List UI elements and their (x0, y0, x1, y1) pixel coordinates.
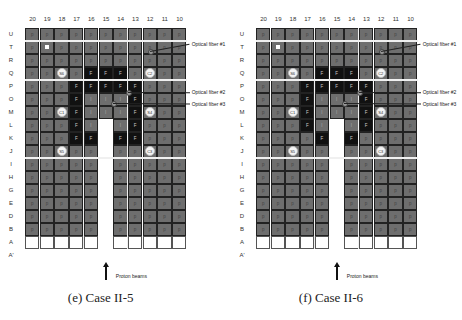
row-label: J (4, 148, 18, 154)
core-cell: C1 (54, 106, 68, 119)
detector-circle-s6: S6 (57, 68, 67, 78)
core-cell: p (113, 197, 127, 210)
row-label: D (4, 213, 18, 219)
column-label: 11 (388, 16, 403, 22)
row-label: R (235, 57, 249, 63)
core-cell: p (330, 28, 344, 41)
core-cell: p (69, 223, 83, 236)
core-cell: p (285, 184, 299, 197)
core-cell: p (143, 197, 157, 210)
column-label: 14 (344, 16, 359, 22)
core-cell: p (69, 210, 83, 223)
core-cell: p (172, 106, 186, 119)
core-cell: p (300, 223, 314, 236)
core-cell: p (157, 145, 171, 158)
core-cell: S4 (143, 106, 157, 119)
core-cell: p (285, 158, 299, 171)
column-label: 17 (300, 16, 315, 22)
white-marker-icon (45, 45, 49, 49)
column-label: 12 (143, 16, 158, 22)
core-cell: p (403, 210, 417, 223)
core-cell: p (84, 184, 98, 197)
core-cell: p (344, 54, 358, 67)
figure-caption: (e) Case II-5 (68, 290, 134, 306)
core-cell (40, 41, 54, 54)
core-cell: p (374, 119, 388, 132)
core-cell: p (315, 223, 329, 236)
core-cell: p (172, 28, 186, 41)
detector-circle-c2: C2 (145, 68, 155, 78)
core-cell: p (143, 28, 157, 41)
core-cell: p (285, 132, 299, 145)
core-cell: p (128, 210, 142, 223)
core-cell: p (359, 197, 373, 210)
core-cell: p (69, 28, 83, 41)
core-cell: p (359, 67, 373, 80)
core-cell: p (374, 132, 388, 145)
core-cell: p (388, 119, 402, 132)
core-cell: p (172, 184, 186, 197)
core-cell (99, 210, 113, 223)
core-cell: p (300, 158, 314, 171)
core-cell: S5 (285, 145, 299, 158)
core-cell: p (374, 158, 388, 171)
core-cell: p (25, 171, 39, 184)
core-cell: C3 (374, 145, 388, 158)
core-cell: p (359, 41, 373, 54)
core-cell: F (69, 132, 83, 145)
core-cell: p (388, 28, 402, 41)
core-cell: p (315, 158, 329, 171)
core-cell: p (69, 67, 83, 80)
core-cell: I (315, 119, 329, 132)
row-label: A' (235, 252, 249, 258)
core-cell: p (40, 184, 54, 197)
core-cell: p (315, 171, 329, 184)
row-label: J (235, 148, 249, 154)
grid-separator (314, 28, 316, 249)
core-cell: p (359, 158, 373, 171)
core-cell: p (285, 93, 299, 106)
core-cell: p (285, 197, 299, 210)
row-label: Q (235, 70, 249, 76)
column-label: 16 (315, 16, 330, 22)
core-cell: p (256, 93, 270, 106)
row-label: O (4, 96, 18, 102)
core-cell: p (25, 106, 39, 119)
core-cell: p (172, 132, 186, 145)
core-cell: p (25, 145, 39, 158)
row-label: U (235, 31, 249, 37)
core-cell: p (271, 223, 285, 236)
core-cell: p (403, 80, 417, 93)
core-cell: p (285, 54, 299, 67)
column-label: 13 (359, 16, 374, 22)
core-cell: p (113, 145, 127, 158)
core-cell: p (40, 80, 54, 93)
core-cell (113, 236, 127, 249)
core-cell: p (113, 28, 127, 41)
core-cell: F (300, 80, 314, 93)
core-cell: I (113, 119, 127, 132)
core-cell: p (256, 145, 270, 158)
core-cell: p (25, 197, 39, 210)
column-label: 10 (172, 16, 187, 22)
core-cell: p (388, 106, 402, 119)
core-cell: p (256, 67, 270, 80)
core-cell: F (344, 132, 358, 145)
grid-separator (256, 40, 418, 42)
row-label: B (4, 226, 18, 232)
core-cell: p (54, 93, 68, 106)
grid-separator (256, 157, 418, 159)
core-cell: F (359, 106, 373, 119)
core-cell: p (374, 54, 388, 67)
core-cell: p (285, 119, 299, 132)
core-cell: p (271, 93, 285, 106)
core-cell: p (315, 28, 329, 41)
core-cell: p (359, 210, 373, 223)
column-label: 20 (256, 16, 271, 22)
core-cell: p (300, 67, 314, 80)
core-cell: p (388, 54, 402, 67)
core-cell: p (143, 184, 157, 197)
core-cell (403, 236, 417, 249)
core-cell: p (54, 80, 68, 93)
core-cell: p (285, 28, 299, 41)
